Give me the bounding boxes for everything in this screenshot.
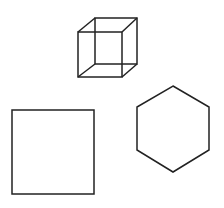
hexagon-shape	[137, 86, 209, 172]
cube-edge-top-left	[78, 18, 95, 32]
cube-shape	[78, 18, 137, 77]
cube-edge-bottom-right	[122, 64, 137, 77]
cube-front-face	[78, 32, 122, 77]
diagram-canvas	[0, 0, 224, 208]
cube-edge-bottom-left	[78, 64, 95, 77]
cube-edge-top-right	[122, 18, 137, 32]
square-shape	[12, 110, 94, 194]
